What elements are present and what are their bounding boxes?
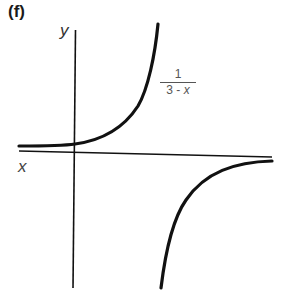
curve-right-branch	[161, 161, 272, 288]
y-axis	[73, 30, 76, 288]
plot-area	[0, 0, 281, 298]
curve-left-branch	[19, 24, 158, 146]
x-axis	[19, 151, 272, 157]
